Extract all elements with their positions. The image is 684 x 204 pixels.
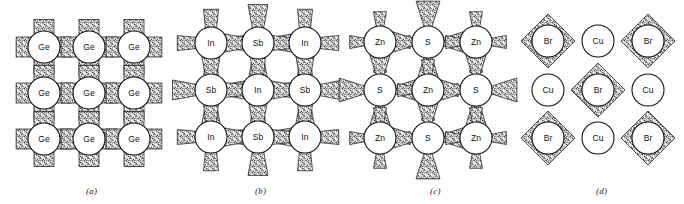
svg-text:Sb: Sb <box>253 38 264 48</box>
atom-a-ge-r1c2: Ge <box>118 77 150 109</box>
svg-text:Ge: Ge <box>128 88 140 98</box>
svg-text:Br: Br <box>644 133 653 143</box>
svg-text:Ge: Ge <box>83 134 95 144</box>
svg-text:Ge: Ge <box>128 42 140 52</box>
svg-text:Ge: Ge <box>83 88 95 98</box>
svg-text:S: S <box>473 85 479 95</box>
svg-text:Ge: Ge <box>38 134 50 144</box>
svg-text:Zn: Zn <box>375 37 385 47</box>
atom-b-in-r0c2: In <box>289 27 321 59</box>
atom-d-br-r2c2: Br <box>632 122 664 154</box>
svg-text:Br: Br <box>644 36 653 46</box>
atom-a-ge-r2c0: Ge <box>28 123 60 155</box>
atom-d-cu-r2c1: Cu <box>582 122 614 154</box>
svg-text:Zn: Zn <box>375 133 385 143</box>
atom-d-cu-r0c1: Cu <box>582 25 614 57</box>
panel-caption-c: (c) <box>430 186 441 196</box>
svg-text:Sb: Sb <box>253 132 264 142</box>
svg-text:Ge: Ge <box>38 88 50 98</box>
svg-text:Zn: Zn <box>471 37 481 47</box>
atom-c-zn-r0c0: Zn <box>364 26 396 58</box>
svg-text:S: S <box>377 85 383 95</box>
svg-text:S: S <box>425 133 431 143</box>
atom-c-s-r1c0: S <box>364 74 396 106</box>
atom-a-ge-r2c2: Ge <box>118 123 150 155</box>
atom-d-br-r0c2: Br <box>632 25 664 57</box>
atom-b-sb-r1c2: Sb <box>289 74 321 106</box>
svg-text:Zn: Zn <box>423 85 433 95</box>
svg-text:Ge: Ge <box>83 42 95 52</box>
svg-text:Cu: Cu <box>642 85 653 95</box>
panel-caption-b: (b) <box>255 186 266 196</box>
svg-text:Sb: Sb <box>300 85 311 95</box>
atom-c-zn-r0c2: Zn <box>460 26 492 58</box>
svg-text:Br: Br <box>544 36 553 46</box>
svg-text:S: S <box>425 37 431 47</box>
atom-a-ge-r1c0: Ge <box>28 77 60 109</box>
svg-text:Zn: Zn <box>471 133 481 143</box>
atom-a-ge-r0c0: Ge <box>28 31 60 63</box>
svg-text:Cu: Cu <box>592 36 603 46</box>
atom-c-s-r1c2: S <box>460 74 492 106</box>
atom-b-in-r2c0: In <box>195 121 227 153</box>
svg-text:Br: Br <box>594 85 603 95</box>
atom-c-zn-r2c2: Zn <box>460 122 492 154</box>
panel-caption-a: (a) <box>86 186 97 196</box>
atom-a-ge-r0c1: Ge <box>73 31 105 63</box>
atom-d-br-r1c1: Br <box>582 74 614 106</box>
svg-text:Ge: Ge <box>128 134 140 144</box>
svg-text:In: In <box>301 132 308 142</box>
atom-b-in-r2c2: In <box>289 121 321 153</box>
figure-crystal-bonding: GeGeGeGeGeGeGeGeGeInSbInSbInSbInSbInZnSZ… <box>0 0 684 204</box>
atom-d-br-r0c0: Br <box>532 25 564 57</box>
svg-text:In: In <box>254 85 261 95</box>
atom-c-s-r0c1: S <box>412 26 444 58</box>
svg-text:Ge: Ge <box>38 42 50 52</box>
atom-b-sb-r2c1: Sb <box>242 121 274 153</box>
figure-canvas: GeGeGeGeGeGeGeGeGeInSbInSbInSbInSbInZnSZ… <box>0 0 684 204</box>
svg-text:Cu: Cu <box>592 133 603 143</box>
atom-d-cu-r1c0: Cu <box>532 74 564 106</box>
atom-d-cu-r1c2: Cu <box>632 74 664 106</box>
svg-text:In: In <box>207 132 214 142</box>
panel-caption-d: (d) <box>596 186 607 196</box>
atom-b-in-r1c1: In <box>242 74 274 106</box>
svg-text:Br: Br <box>544 133 553 143</box>
atom-c-zn-r1c1: Zn <box>412 74 444 106</box>
atom-b-in-r0c0: In <box>195 27 227 59</box>
atom-a-ge-r1c1: Ge <box>73 77 105 109</box>
svg-text:In: In <box>301 38 308 48</box>
svg-text:Sb: Sb <box>206 85 217 95</box>
atom-c-zn-r2c0: Zn <box>364 122 396 154</box>
svg-text:Cu: Cu <box>542 85 553 95</box>
atom-a-ge-r0c2: Ge <box>118 31 150 63</box>
atom-d-br-r2c0: Br <box>532 122 564 154</box>
atom-a-ge-r2c1: Ge <box>73 123 105 155</box>
atom-b-sb-r0c1: Sb <box>242 27 274 59</box>
atom-c-s-r2c1: S <box>412 122 444 154</box>
atom-b-sb-r1c0: Sb <box>195 74 227 106</box>
svg-text:In: In <box>207 38 214 48</box>
